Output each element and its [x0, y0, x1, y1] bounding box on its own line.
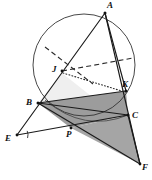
point-label-B: B	[26, 98, 32, 107]
dashed-through-J-right	[62, 58, 133, 71]
vertex-dot-E	[16, 134, 19, 137]
vertex-dot-A	[104, 12, 107, 15]
point-label-J: J	[52, 65, 57, 74]
point-label-E: E	[5, 134, 11, 143]
point-label-K: K	[122, 80, 128, 89]
vertex-dot-F	[139, 163, 142, 166]
point-label-F: F	[142, 163, 148, 172]
point-label-A: A	[107, 1, 113, 10]
vertex-dot-K	[125, 90, 128, 93]
point-label-C: C	[132, 111, 138, 120]
point-label-P: P	[66, 130, 72, 139]
vertex-dot-J	[61, 70, 64, 73]
geometry-figure: A B C E F J K P	[0, 0, 152, 180]
geometry-canvas	[0, 0, 152, 180]
vertex-dot-C	[127, 114, 130, 117]
angle-mark-at-E	[27, 131, 28, 138]
vertex-dot-B	[37, 102, 40, 105]
